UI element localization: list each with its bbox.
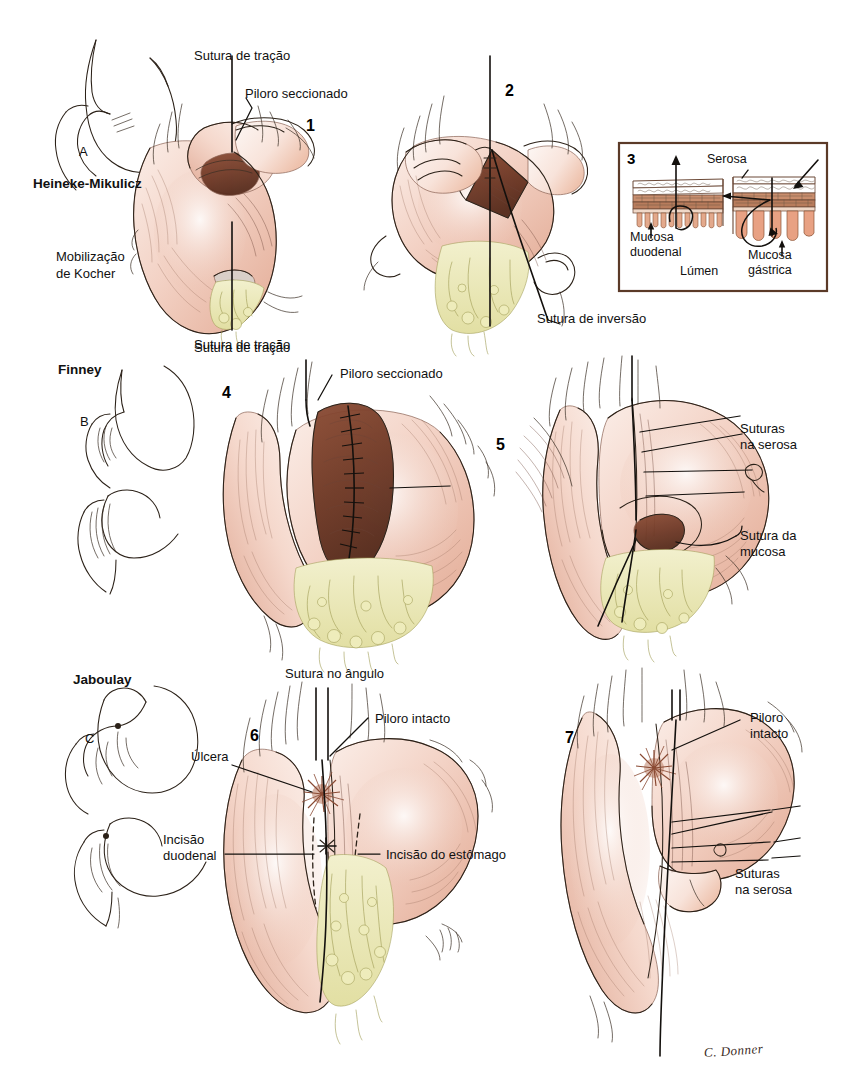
label-mucosa-gastrica-line1: Mucosa	[748, 248, 792, 263]
schematic-stomach-c	[65, 686, 197, 814]
schematic-letter-a: A	[79, 144, 88, 159]
schematic-letter-c: C	[85, 731, 94, 746]
technique-label-jaboulay: Jaboulay	[73, 672, 132, 687]
label-piloro-intacto-7-line1: Piloro	[750, 710, 783, 725]
panel-number-3: 3	[627, 150, 635, 167]
panel-6-illustration	[224, 682, 493, 1044]
omentum-panel-4	[294, 558, 433, 674]
panel-5-illustration	[516, 356, 769, 662]
panel-number-5: 5	[496, 436, 505, 454]
schematic-letter-b: B	[80, 414, 89, 429]
label-incisao-duodenal-line1: Incisão	[163, 832, 204, 847]
label-sutura-no-angulo: Sutura no ângulo	[285, 666, 384, 681]
label-piloro-intacto-6: Piloro intacto	[375, 711, 450, 726]
label-incisao-duodenal-line2: duodenal	[163, 848, 217, 863]
omentum-panel-2	[435, 241, 529, 356]
label-sutura-tracao-top-1: Sutura de tração	[194, 48, 290, 63]
label-suturas-na-serosa-5-line1: Suturas	[740, 421, 785, 436]
technique-label-heineke-mikulicz: Heineke-Mikulicz	[33, 176, 142, 191]
label-suturas-na-serosa-7-line1: Suturas	[735, 866, 780, 881]
label-sutura-da-mucosa-line1: Sutura da	[740, 528, 796, 543]
technique-label-finney: Finney	[58, 362, 102, 377]
omentum-panel-6	[317, 855, 394, 1045]
label-piloro-intacto-7-line2: intacto	[750, 726, 788, 741]
label-sutura-da-mucosa-line2: mucosa	[740, 544, 786, 559]
label-piloro-seccionado-1: Piloro seccionado	[245, 86, 348, 101]
label-incisao-do-estomago: Incisão do estômago	[386, 847, 506, 862]
label-mucosa-duodenal-line1: Mucosa	[630, 230, 674, 245]
surgical-plate: Heineke-Mikulicz A Mobilização de Kocher…	[0, 0, 841, 1083]
label-mobilizacao-kocher-line2: de Kocher	[56, 266, 115, 281]
label-mobilizacao-kocher-line1: Mobilização	[56, 249, 125, 264]
panel-1-illustration	[131, 104, 315, 348]
label-lumen: Lúmen	[680, 264, 718, 279]
duodenal-wall-block	[633, 179, 723, 228]
label-ulcera: Úlcera	[191, 749, 229, 764]
panel-number-1: 1	[306, 117, 315, 135]
schematic-stomach-b	[86, 366, 194, 488]
label-sutura-inversao: Sutura de inversão	[537, 311, 646, 326]
panel-number-4: 4	[222, 384, 231, 402]
panel-number-7: 7	[565, 729, 574, 747]
panel-4-illustration	[223, 362, 494, 674]
label-suturas-na-serosa-7-line2: na serosa	[735, 882, 792, 897]
label-mucosa-duodenal-line2: duodenal	[630, 245, 681, 260]
panel-number-6: 6	[250, 727, 259, 745]
omentum-panel-5	[601, 549, 715, 662]
panel-number-2: 2	[505, 82, 514, 100]
label-sutura-tracao-4: Sutura de tração	[194, 340, 290, 355]
label-suturas-na-serosa-5-line2: na serosa	[740, 437, 797, 452]
schematic-stomach-b-lower	[78, 490, 178, 594]
label-serosa: Serosa	[707, 152, 747, 167]
label-mucosa-gastrica-line2: gástrica	[748, 263, 792, 278]
label-piloro-seccionado-4: Piloro seccionado	[340, 366, 443, 381]
